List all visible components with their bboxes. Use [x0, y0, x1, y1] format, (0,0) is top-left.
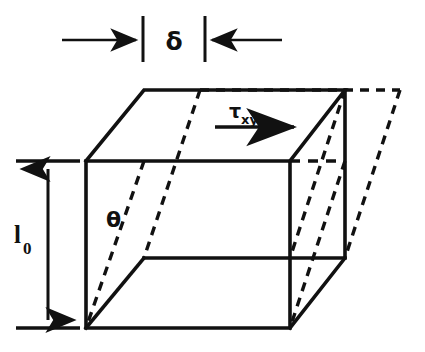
shear-deformation-figure: δ τ [0, 0, 425, 352]
length-subscript: 0 [23, 239, 32, 258]
delta-label: δ [165, 27, 182, 56]
length-label: l [14, 221, 21, 248]
figure-canvas: δ τ [0, 0, 425, 352]
shear-stress-subscript: xy [241, 112, 258, 127]
shear-stress-label: τ [229, 100, 241, 122]
figure-background [0, 0, 425, 352]
theta-label: θ [106, 207, 121, 232]
